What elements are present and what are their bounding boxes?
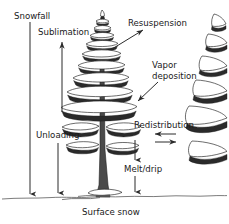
label-sublimation: Sublimation xyxy=(38,27,89,37)
label-unloading: Unloading xyxy=(36,130,79,140)
label-snowfall: Snowfall xyxy=(14,11,50,21)
label-redistribution: Redistribution xyxy=(134,120,194,130)
secondary-conifer-tree xyxy=(185,14,227,164)
resuspension-arrow xyxy=(112,30,143,49)
ground-line xyxy=(2,195,227,200)
label-vapor-deposition-line1: Vapor xyxy=(152,60,177,70)
snow-process-diagram: Snowfall Sublimation Resuspension Vapor … xyxy=(0,0,229,224)
vapor-deposition-arrow xyxy=(138,82,158,101)
diagram-canvas: Snowfall Sublimation Resuspension Vapor … xyxy=(0,0,229,224)
label-vapor-deposition-line2: deposition xyxy=(152,71,197,81)
label-resuspension: Resuspension xyxy=(128,18,187,28)
label-melt-drip: Melt/drip xyxy=(124,164,162,174)
label-surface-snow: Surface snow xyxy=(82,207,140,217)
